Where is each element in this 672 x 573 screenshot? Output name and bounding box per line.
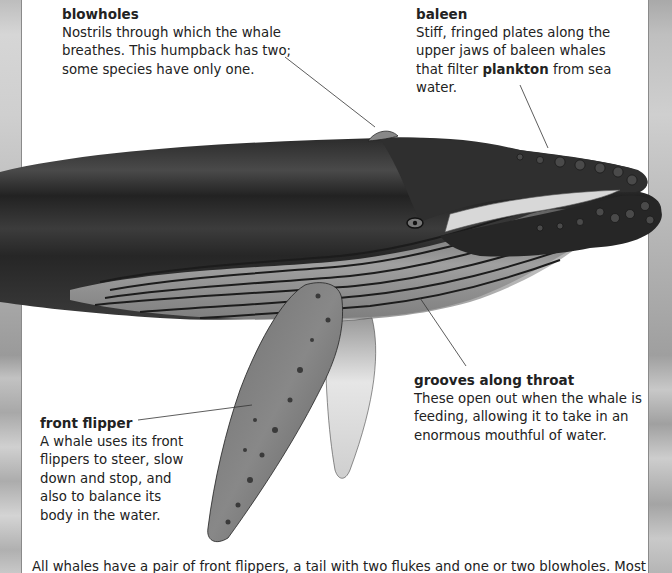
label-blowholes: blowholes Nostrils through which the wha… xyxy=(62,5,292,79)
label-grooves-body: These open out when the whale is feeding… xyxy=(414,391,642,443)
label-blowholes-title: blowholes xyxy=(62,5,292,24)
leader-blowholes xyxy=(285,57,375,127)
label-baleen-title: baleen xyxy=(416,5,636,24)
label-baleen-body: Stiff, fringed plates along the upper ja… xyxy=(416,25,611,96)
glossary-term-plankton: plankton xyxy=(482,62,548,77)
label-grooves: grooves along throat These open out when… xyxy=(414,371,644,445)
label-baleen: baleen Stiff, fringed plates along the u… xyxy=(416,5,636,98)
label-front-flipper-title: front flipper xyxy=(40,414,190,433)
footer-paragraph: All whales have a pair of front flippers… xyxy=(32,558,652,573)
label-front-flipper-body: A whale uses its front flippers to steer… xyxy=(40,434,183,523)
label-front-flipper: front flipper A whale uses its front fli… xyxy=(40,414,190,525)
whale-front-flipper xyxy=(208,283,343,542)
label-blowholes-body: Nostrils through which the whale breathe… xyxy=(62,25,291,77)
label-grooves-title: grooves along throat xyxy=(414,371,644,390)
